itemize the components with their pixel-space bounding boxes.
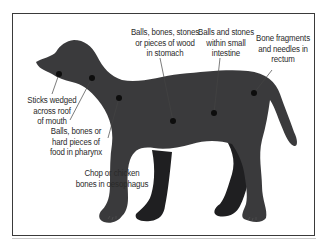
label-oesophagus: Chop or chicken bones in oesophagus bbox=[72, 168, 151, 189]
label-line: across roof bbox=[21, 106, 83, 117]
label-line: Balls, bones or bbox=[42, 126, 111, 137]
label-line: Chop or chicken bbox=[72, 168, 151, 179]
label-line: Balls and stones bbox=[193, 27, 258, 38]
label-line: within small bbox=[193, 38, 258, 49]
label-small-intestine: Balls and stones within small intestine bbox=[193, 27, 258, 59]
dot-stomach bbox=[170, 118, 176, 124]
label-line: and needles in bbox=[253, 44, 313, 55]
dot-mouth bbox=[56, 71, 62, 77]
label-line: Bone fragments bbox=[253, 33, 313, 44]
leader-mouth bbox=[52, 74, 59, 94]
label-mouth: Sticks wedged across roof of mouth bbox=[21, 95, 83, 127]
dot-rectum bbox=[251, 90, 257, 96]
dot-pharynx bbox=[89, 75, 95, 81]
label-line: rectum bbox=[253, 54, 313, 65]
label-line: bones in oesophagus bbox=[72, 179, 151, 190]
label-line: food in pharynx bbox=[42, 147, 111, 158]
label-line: Sticks wedged bbox=[21, 95, 83, 106]
label-pharynx: Balls, bones or hard pieces of food in p… bbox=[42, 126, 111, 158]
label-line: hard pieces of bbox=[42, 137, 111, 148]
dot-oesophagus bbox=[116, 95, 122, 101]
label-line: intestine bbox=[193, 48, 258, 59]
dot-small-intestine bbox=[211, 110, 217, 116]
label-rectum: Bone fragments and needles in rectum bbox=[253, 33, 313, 65]
